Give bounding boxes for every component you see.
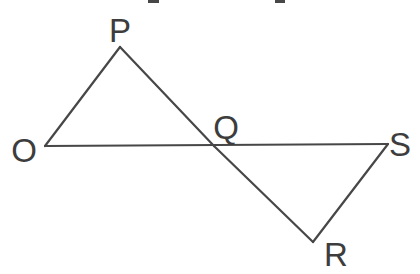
segment-QR <box>214 146 313 242</box>
crop-artifact-2 <box>275 0 285 3</box>
segment-OP <box>45 47 120 146</box>
vertex-label-O: O <box>11 132 37 169</box>
vertex-label-Q: Q <box>213 109 239 146</box>
vertex-label-S: S <box>389 126 411 163</box>
figure-canvas: OPQSR <box>0 0 420 274</box>
segment-PQ <box>120 47 214 146</box>
vertex-label-R: R <box>324 236 348 273</box>
vertex-label-P: P <box>109 12 131 49</box>
triangle-bowtie-diagram: OPQSR <box>0 0 420 274</box>
segment-SR <box>313 144 388 242</box>
crop-artifact-1 <box>148 0 159 3</box>
